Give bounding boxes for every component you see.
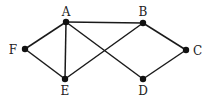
node-label-a: A [61,5,71,19]
node-b [140,20,146,26]
node-label-c: C [193,44,202,58]
node-label-f: F [9,43,17,57]
edge-a-e [65,22,66,79]
node-c [183,47,189,53]
edge-b-c [143,23,186,50]
node-label-b: B [139,5,148,19]
edge-a-f [25,22,66,49]
node-f [22,46,28,52]
edge-c-d [143,50,186,79]
graph-diagram: ABCDEF [0,0,211,104]
node-label-d: D [138,84,148,98]
node-label-e: E [61,84,70,98]
edge-f-e [25,49,65,79]
edge-a-b [66,22,143,23]
node-a [63,19,69,25]
node-d [140,76,146,82]
edges-group [25,22,186,79]
node-e [62,76,68,82]
